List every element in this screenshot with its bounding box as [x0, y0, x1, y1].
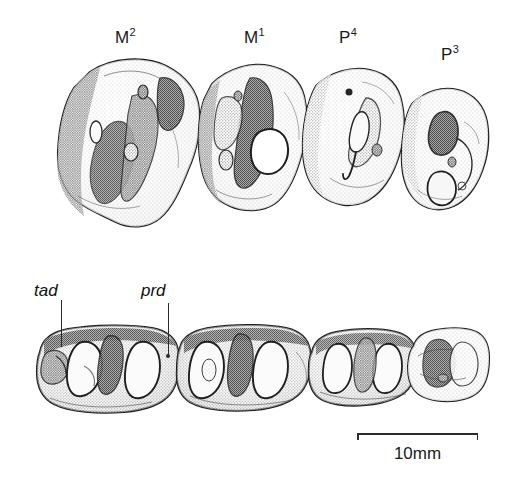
- leader-endpoint-prd: [166, 354, 170, 358]
- label-upper-M1: M1: [244, 28, 265, 48]
- label-upper-M2: M2: [115, 28, 136, 48]
- upper-tooth-M1: [199, 65, 307, 210]
- scale-bar-label: 10mm: [357, 444, 478, 464]
- leader-line-prd: [168, 303, 169, 356]
- leader-line-tad: [61, 300, 62, 347]
- scale-bar-tick-right: [477, 433, 479, 440]
- scale-bar: [357, 433, 478, 443]
- upper-tooth-P4: [303, 69, 404, 205]
- label-upper-P3: P3: [441, 45, 459, 65]
- lower-tooth-3: [309, 329, 417, 406]
- tooth-illustration: [0, 0, 521, 481]
- scale-bar-tick-left: [357, 433, 359, 440]
- label-prd: prd: [141, 281, 166, 301]
- scale-bar-horizontal: [357, 433, 478, 435]
- upper-row-drawing: [57, 59, 488, 226]
- tooth-plate-figure: M2 M1 P4 P3 tad prd 10mm: [0, 0, 521, 481]
- lower-tooth-2: [177, 325, 311, 411]
- lower-tooth-4: [408, 328, 489, 401]
- lower-row-drawing: [37, 325, 489, 413]
- upper-tooth-P3: [402, 89, 488, 210]
- lower-tooth-1: [37, 325, 179, 412]
- label-tad: tad: [34, 281, 58, 301]
- label-upper-P4: P4: [339, 28, 357, 48]
- upper-tooth-M2: [57, 59, 199, 226]
